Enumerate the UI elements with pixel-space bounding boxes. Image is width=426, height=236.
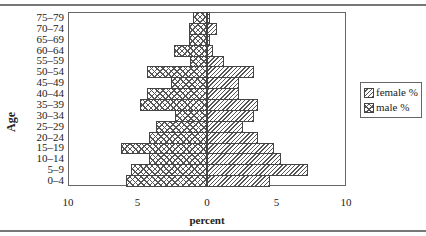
category-label: 0–4 (48, 175, 65, 186)
x-axis-label: percent (189, 214, 224, 226)
x-tick-label: 5 (274, 196, 280, 208)
female-swatch-icon (364, 88, 374, 98)
bottom-rule (0, 230, 426, 232)
x-tick-label: 10 (341, 196, 352, 208)
top-rule (0, 4, 426, 6)
legend-item-male: male % (364, 100, 418, 115)
y-axis-label: Age (4, 112, 19, 132)
x-tick-label: 0 (204, 196, 210, 208)
x-tick-label: 5 (135, 196, 141, 208)
legend-male-label: male % (376, 100, 409, 115)
female-bar (207, 175, 270, 187)
x-tick-label: 10 (63, 196, 74, 208)
legend-item-female: female % (364, 85, 418, 100)
male-swatch-icon (364, 103, 374, 113)
legend: female % male % (360, 82, 422, 118)
male-bar (126, 175, 207, 187)
legend-female-label: female % (376, 85, 418, 100)
